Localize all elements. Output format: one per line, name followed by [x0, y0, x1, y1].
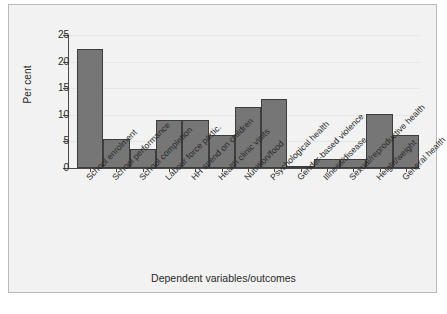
y-axis-tick-label-text: 5	[45, 136, 69, 146]
y-axis-tick-label: 25	[35, 30, 69, 31]
y-axis-tick-label: 10	[35, 110, 69, 111]
y-axis-tick-label-text: 15	[45, 83, 69, 93]
y-axis-tick-label-text: 25	[45, 30, 69, 40]
x-axis-title: Dependent variables/outcomes	[9, 272, 438, 284]
y-axis-tick-label: 15	[35, 83, 69, 84]
y-axis-tick-label-text: 10	[45, 110, 69, 120]
bar	[77, 49, 103, 168]
y-axis-tick-label: 0	[35, 163, 69, 164]
y-axis-tick-label-text: 20	[45, 57, 69, 67]
y-axis-tick-label-text: 0	[45, 163, 69, 173]
y-axis-tick-label: 20	[35, 57, 69, 58]
y-axis-label: Per cent	[22, 55, 33, 115]
chart-plot-frame: Per cent 0510152025 School enrolmentScho…	[8, 4, 437, 293]
y-axis-tick-label: 5	[35, 136, 69, 137]
